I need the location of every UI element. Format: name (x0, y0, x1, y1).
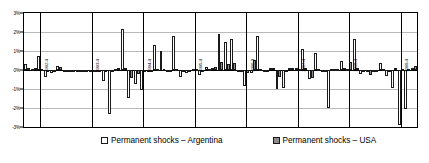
legend-item-usa: Permanent shocks – USA (273, 136, 377, 145)
chart-container: 3%2%1%0%-1%-2%-3% 1992-41993-41994-41995… (0, 0, 429, 163)
bar-argentina (398, 70, 401, 125)
y-tick-label: -1% (12, 87, 20, 92)
legend-swatch-argentina (101, 137, 108, 144)
bar-argentina (37, 56, 40, 70)
bar-argentina (256, 36, 259, 70)
bar-group (411, 13, 417, 127)
bar-argentina (108, 70, 111, 114)
bar-argentina (153, 45, 156, 70)
plot-area (23, 12, 418, 128)
bar-argentina (404, 70, 407, 109)
legend-swatch-usa (273, 137, 280, 144)
legend-item-argentina: Permanent shocks – Argentina (101, 136, 223, 145)
bar-argentina (353, 39, 356, 70)
bar-usa (414, 66, 417, 70)
bar-argentina (160, 51, 163, 70)
bar-argentina (140, 70, 143, 90)
bar-series-group (24, 13, 417, 127)
bar-argentina (314, 53, 317, 70)
chart-legend: Permanent shocks – Argentina Permanent s… (23, 131, 418, 149)
bar-argentina (250, 70, 253, 73)
legend-label-argentina: Permanent shocks – Argentina (111, 136, 223, 145)
legend-label-usa: Permanent shocks – USA (283, 136, 377, 145)
bar-argentina (301, 49, 304, 70)
bar-argentina (172, 36, 175, 70)
bar-argentina (121, 29, 124, 70)
bar-argentina (327, 70, 330, 108)
bar-argentina (282, 70, 285, 88)
y-axis: 3%2%1%0%-1%-2%-3% (0, 12, 23, 128)
y-tick-label: -3% (12, 125, 20, 130)
chart-top-marker (0, 0, 6, 4)
bar-argentina (391, 70, 394, 88)
y-tick-label: -2% (12, 106, 20, 111)
